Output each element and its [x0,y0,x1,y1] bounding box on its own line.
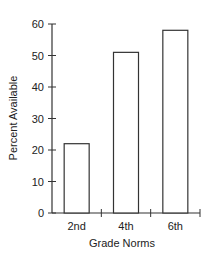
y-axis-title: Percent Available [7,76,19,161]
y-tick-label: 60 [32,18,44,30]
bar-4th [114,52,139,213]
y-axis: 0102030405060 [32,18,56,219]
y-tick-label: 50 [32,50,44,62]
y-tick-label: 10 [32,176,44,188]
x-tick-label: 4th [118,220,133,232]
x-tick-label: 2nd [67,220,85,232]
x-axis-title: Grade Norms [89,237,156,249]
bar-chart: 0102030405060 2nd4th6th Grade Norms Perc… [0,0,210,259]
y-tick-label: 40 [32,81,44,93]
bar-6th [163,30,188,213]
bar-2nd [64,144,89,213]
x-tick-label: 6th [168,220,183,232]
y-tick-label: 0 [38,207,44,219]
bars [64,30,188,213]
y-tick-label: 30 [32,113,44,125]
y-tick-label: 20 [32,144,44,156]
